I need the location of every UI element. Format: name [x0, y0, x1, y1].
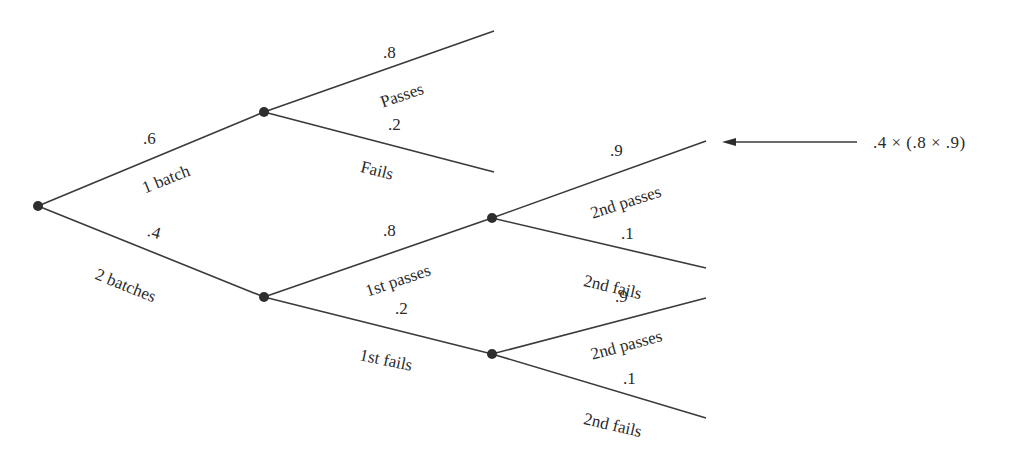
prob-fails: .2 [388, 116, 401, 133]
prob-fp-2nd-passes: .9 [610, 142, 623, 159]
arrow-left-icon [722, 138, 736, 146]
node-1st-passes [487, 213, 497, 223]
prob-1st-passes: .8 [383, 222, 396, 239]
branch-ff-2nd-fails [492, 354, 706, 418]
root-node [33, 201, 43, 211]
prob-fp-2nd-fails: .1 [621, 225, 634, 242]
branch-fp-2nd-fails [492, 218, 706, 268]
branch-1st-fails [264, 297, 492, 354]
annotation-formula: .4 × (.8 × .9) [873, 133, 966, 153]
prob-1-batch: .6 [143, 130, 156, 147]
branch-passes [264, 31, 494, 112]
prob-1st-fails: .2 [395, 300, 408, 317]
prob-ff-2nd-fails: .1 [623, 370, 636, 387]
node-2-batches [259, 292, 269, 302]
branch-2-batches [38, 206, 264, 297]
node-1-batch [259, 107, 269, 117]
prob-passes: .8 [383, 44, 396, 61]
prob-ff-2nd-passes: .9 [615, 288, 628, 305]
node-1st-fails [487, 349, 497, 359]
